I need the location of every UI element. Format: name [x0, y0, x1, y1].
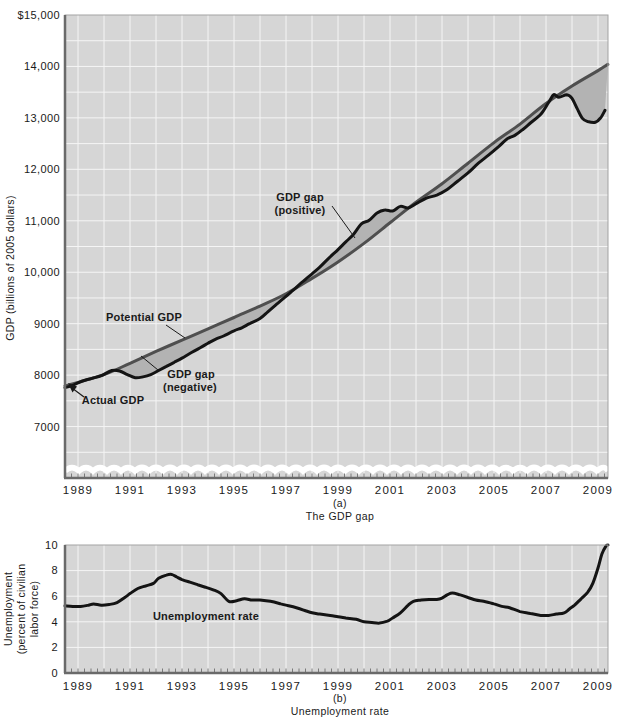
x-tick-2005a: 2005: [479, 484, 509, 496]
x-tick-2005b: 2005: [479, 680, 509, 692]
x-tick-1993a: 1993: [167, 484, 197, 496]
panel-b-y-axis-title-line2: (percent of civilian: [15, 564, 27, 655]
panel-b-caption-title: Unemployment rate: [291, 705, 389, 717]
y-tick-2: 2: [51, 641, 58, 653]
panel-a-y-axis-labels: $15,000 14,000 13,000 12,000 11,000 10,0…: [17, 9, 60, 433]
x-tick-2009a: 2009: [583, 484, 613, 496]
x-tick-1995b: 1995: [219, 680, 249, 692]
y-tick-15000: $15,000: [17, 9, 60, 21]
y-tick-6: 6: [51, 590, 58, 602]
plot-background: [65, 545, 608, 673]
x-tick-1991b: 1991: [115, 680, 145, 692]
potential-gdp-label: Potential GDP: [106, 311, 182, 323]
y-tick-9000: 9000: [34, 318, 60, 330]
x-tick-2001b: 2001: [375, 680, 405, 692]
x-tick-2007b: 2007: [531, 680, 561, 692]
panel-a-x-axis-labels: 1989 1991 1993 1995 1997 1999 2001 2003 …: [63, 484, 613, 496]
gdp-gap-positive-label-line1: GDP gap: [276, 191, 324, 203]
y-tick-14000: 14,000: [24, 60, 60, 72]
axis-break-squiggle: [65, 468, 608, 472]
panel-a-caption-letter: (a): [333, 497, 347, 509]
x-tick-1997b: 1997: [271, 680, 301, 692]
x-tick-1989a: 1989: [63, 484, 93, 496]
unemployment-rate-label: Unemployment rate: [153, 610, 259, 622]
chart-canvas: $15,000 14,000 13,000 12,000 11,000 10,0…: [0, 0, 618, 721]
y-tick-12000: 12,000: [24, 163, 60, 175]
x-tick-1993b: 1993: [167, 680, 197, 692]
panel-a-y-axis-title: GDP (billions of 2005 dollars): [4, 195, 16, 340]
gdp-gap-positive-label-line2: (positive): [275, 204, 326, 216]
actual-gdp-label: Actual GDP: [82, 394, 145, 406]
x-tick-1991a: 1991: [115, 484, 145, 496]
x-tick-1999b: 1999: [323, 680, 353, 692]
panel-b-y-axis-labels: 10 8 6 4 2 0: [45, 539, 58, 679]
x-tick-1997a: 1997: [271, 484, 301, 496]
panel-a-caption-title: The GDP gap: [306, 510, 374, 522]
y-tick-7000: 7000: [34, 421, 60, 433]
x-tick-2007a: 2007: [531, 484, 561, 496]
y-tick-10000: 10,000: [24, 266, 60, 278]
panel-b-x-axis-labels: 1989 1991 1993 1995 1997 1999 2001 2003 …: [63, 680, 613, 692]
x-tick-2009b: 2009: [583, 680, 613, 692]
panel-b-caption-letter: (b): [333, 692, 347, 704]
x-tick-1995a: 1995: [219, 484, 249, 496]
y-tick-0: 0: [51, 667, 58, 679]
panel-b-y-axis-title-line3: labor force): [28, 581, 40, 638]
x-tick-2003b: 2003: [427, 680, 457, 692]
x-tick-1989b: 1989: [63, 680, 93, 692]
gdp-gap-negative-label-line2: (negative): [163, 381, 217, 393]
y-tick-8000: 8000: [34, 369, 60, 381]
y-tick-4: 4: [51, 616, 58, 628]
y-tick-13000: 13,000: [24, 112, 60, 124]
y-tick-11000: 11,000: [25, 215, 60, 227]
y-tick-8: 8: [51, 564, 58, 576]
x-tick-2003a: 2003: [427, 484, 457, 496]
gdp-gap-negative-label-line1: GDP gap: [167, 368, 215, 380]
panel-b-y-axis-title: Unemployment (percent of civilian labor …: [2, 564, 40, 655]
x-tick-2001a: 2001: [375, 484, 405, 496]
panel-b-y-axis-title-line1: Unemployment: [2, 572, 14, 646]
panel-b-plot-area: [65, 545, 608, 673]
axis-break-wave: [65, 468, 608, 472]
y-tick-10: 10: [45, 539, 58, 551]
figure-gdp-gap-and-unemployment: $15,000 14,000 13,000 12,000 11,000 10,0…: [0, 0, 618, 721]
x-tick-1999a: 1999: [323, 484, 353, 496]
